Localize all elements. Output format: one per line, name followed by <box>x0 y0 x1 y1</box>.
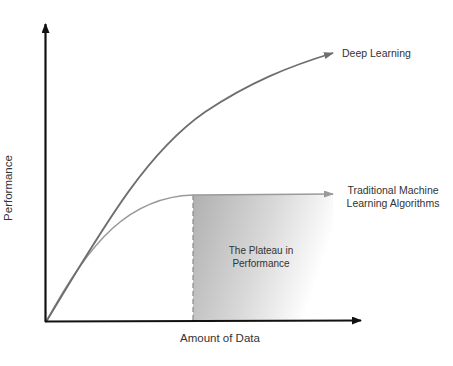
plateau-label: The Plateau in Performance <box>206 244 316 270</box>
x-axis <box>45 321 361 322</box>
plateau-label-line1: The Plateau in <box>206 244 316 257</box>
traditional-ml-label: Traditional Machine Learning Algorithms <box>337 184 449 210</box>
traditional-ml-label-line2: Learning Algorithms <box>337 197 449 210</box>
y-axis-label: Performance <box>2 155 15 221</box>
deep-learning-label: Deep Learning <box>342 47 411 60</box>
x-axis-label: Amount of Data <box>180 332 260 345</box>
plateau-label-line2: Performance <box>206 257 316 270</box>
traditional-ml-label-line1: Traditional Machine <box>337 184 449 197</box>
y-axis-label-text: Performance <box>2 155 15 221</box>
